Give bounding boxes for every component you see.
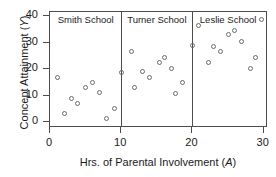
data-point xyxy=(232,28,237,33)
data-point xyxy=(147,75,152,80)
y-axis-tick-label: 40 xyxy=(10,9,38,20)
data-point xyxy=(132,85,137,90)
data-point xyxy=(190,43,195,48)
x-axis-tick-label: 30 xyxy=(248,136,276,148)
x-axis-tick xyxy=(49,127,50,133)
x-axis-tick xyxy=(120,127,121,133)
y-axis-tick-label: 10 xyxy=(10,89,38,100)
data-point xyxy=(104,116,109,121)
x-axis-title: Hrs. of Parental Involvement (A) xyxy=(49,156,267,168)
x-axis-tick xyxy=(191,127,192,133)
panel-divider xyxy=(192,12,193,126)
scatter-plot-figure: Concept Attainment (Y) Hrs. of Parental … xyxy=(0,0,276,177)
data-point xyxy=(180,80,185,85)
x-axis-tick-label: 20 xyxy=(176,136,206,148)
data-point xyxy=(206,60,211,65)
data-point xyxy=(169,66,174,71)
y-axis-tick-label: 30 xyxy=(10,36,38,47)
data-point xyxy=(119,70,124,75)
x-axis-tick-label: 10 xyxy=(105,136,135,148)
x-axis-variable: A xyxy=(225,156,232,168)
data-point xyxy=(90,80,95,85)
data-point xyxy=(157,60,162,65)
data-point xyxy=(97,90,102,95)
data-point xyxy=(248,66,253,71)
data-point xyxy=(218,49,223,54)
plot-panel: Smith SchoolTurner SchoolLeslie School xyxy=(49,11,267,127)
data-point xyxy=(83,85,88,90)
data-point xyxy=(226,32,231,37)
data-point xyxy=(239,39,244,44)
data-point xyxy=(196,23,201,28)
data-point xyxy=(140,69,145,74)
data-point xyxy=(75,101,80,106)
x-axis-tick xyxy=(263,127,264,133)
data-point xyxy=(259,17,264,22)
y-axis-tick-label: 0 xyxy=(10,115,38,126)
data-point xyxy=(162,55,167,60)
y-axis-variable: Y xyxy=(18,19,30,26)
data-point xyxy=(69,96,74,101)
data-point xyxy=(173,91,178,96)
data-point xyxy=(211,44,216,49)
data-point xyxy=(62,111,67,116)
x-axis-tick-label: 0 xyxy=(34,136,64,148)
panel-divider xyxy=(121,12,122,126)
data-point xyxy=(55,75,60,80)
data-point xyxy=(253,55,258,60)
data-point xyxy=(112,106,117,111)
y-axis-tick-label: 20 xyxy=(10,62,38,73)
data-point xyxy=(129,49,134,54)
